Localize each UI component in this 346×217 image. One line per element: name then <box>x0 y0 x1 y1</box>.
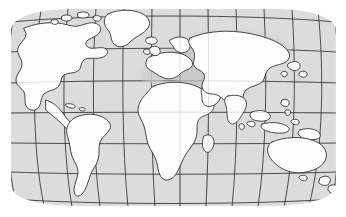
land-korea <box>281 71 287 77</box>
world-map-canvas <box>0 0 346 217</box>
land-iceland <box>146 37 158 44</box>
world-map-figure: World Map <box>0 0 346 217</box>
map-body <box>0 0 346 217</box>
land-sri-lanka <box>239 124 244 130</box>
